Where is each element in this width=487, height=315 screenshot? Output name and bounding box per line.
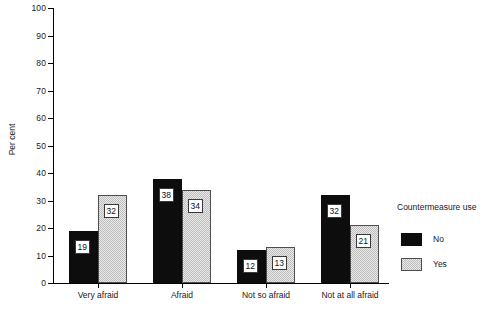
x-category-label: Afraid xyxy=(137,291,227,300)
legend-title: Countermeasure use xyxy=(397,203,476,212)
bar-value-label: 19 xyxy=(75,240,90,254)
y-tick-label: 70 xyxy=(20,87,46,96)
bar-value-label: 34 xyxy=(188,199,203,213)
bar-value-label: 21 xyxy=(356,234,371,248)
y-tick-label: 80 xyxy=(20,59,46,68)
y-tick-label: 30 xyxy=(20,197,46,206)
y-tick xyxy=(48,36,53,37)
x-tick xyxy=(98,284,99,288)
y-tick xyxy=(48,256,53,257)
bar-value-label: 13 xyxy=(272,256,287,270)
y-axis-line xyxy=(53,8,54,283)
y-tick xyxy=(48,201,53,202)
hatched-gray-swatch xyxy=(401,258,422,271)
y-tick xyxy=(48,173,53,174)
solid-black-swatch xyxy=(401,233,422,246)
bar-value-label: 12 xyxy=(243,259,258,273)
x-tick xyxy=(182,284,183,288)
y-tick-label: 50 xyxy=(20,142,46,151)
y-tick-label: 0 xyxy=(20,279,46,288)
y-tick-label: 40 xyxy=(20,169,46,178)
y-tick xyxy=(48,63,53,64)
x-category-label: Not at all afraid xyxy=(305,291,395,300)
x-axis-line xyxy=(53,283,389,284)
bar-no-0 xyxy=(69,231,98,283)
bar-chart: Per cent 0102030405060708090100 Very afr… xyxy=(0,0,487,315)
y-tick xyxy=(48,91,53,92)
y-tick-label: 20 xyxy=(20,224,46,233)
y-tick xyxy=(48,228,53,229)
x-tick xyxy=(266,284,267,288)
y-tick-label: 90 xyxy=(20,32,46,41)
bar-value-label: 38 xyxy=(159,188,174,202)
legend-label-no: No xyxy=(433,235,444,244)
y-tick-label: 10 xyxy=(20,252,46,261)
y-tick-label: 100 xyxy=(20,4,46,13)
x-category-label: Very afraid xyxy=(53,291,143,300)
x-category-label: Not so afraid xyxy=(221,291,311,300)
figure-caption-clipped xyxy=(0,307,487,315)
bar-value-label: 32 xyxy=(327,204,342,218)
y-tick xyxy=(48,118,53,119)
y-tick-label: 60 xyxy=(20,114,46,123)
y-tick xyxy=(48,8,53,9)
x-tick xyxy=(350,284,351,288)
bar-value-label: 32 xyxy=(104,204,119,218)
legend-label-yes: Yes xyxy=(433,260,447,269)
y-tick xyxy=(48,146,53,147)
